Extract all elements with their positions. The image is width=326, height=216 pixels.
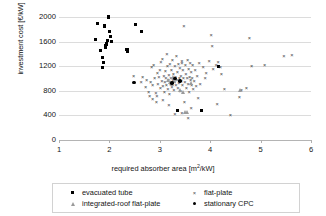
data-point: × [215,102,220,107]
tickmark-x-4 [210,140,211,143]
data-point [109,35,112,38]
legend-marker-dot-icon [193,202,196,205]
data-point: × [209,33,214,38]
data-point: × [289,53,294,58]
data-point [126,50,129,53]
y-tick-label-2000: 2000 [22,13,56,21]
tickmark-x-3 [160,140,161,143]
data-point: × [186,116,191,121]
data-point: × [150,97,155,102]
data-point: × [201,65,206,70]
data-point: × [203,76,208,81]
chart-legend: evacuated tube×flat-plateintegrated-roof… [52,183,300,213]
data-point: × [179,61,184,66]
data-point: × [237,95,242,100]
y-tick-label-1600: 1600 [22,38,56,46]
tickmark-x-5 [261,140,262,143]
data-point: × [210,44,215,49]
data-point [104,46,107,49]
data-point [99,49,102,52]
y-tick-label-1200: 1200 [22,62,56,70]
x-tick-label-4: 4 [200,145,220,154]
data-point: × [195,74,200,79]
data-point: × [174,54,179,59]
data-point: × [157,68,162,73]
data-point [96,22,99,25]
gridline-y-2000 [59,17,311,18]
x-tick-label-5: 5 [251,145,271,154]
data-point: × [198,82,203,87]
data-point [103,24,106,27]
data-point: × [172,112,177,117]
data-point [134,23,137,26]
data-point: × [181,24,186,29]
plot-area: ××××××××××××××××××××××××××××××××××××××××… [59,17,311,140]
data-point: × [182,100,187,105]
data-point: × [262,63,267,68]
x-tick-label-3: 3 [150,145,170,154]
data-point [181,90,185,94]
scatter-chart-figure: investment cost [€/kW] 04008001200160020… [0,0,326,216]
y-axis-tick-labels: 0400800120016002000 [22,0,56,160]
tickmark-x-6 [311,140,312,143]
data-point [107,15,110,18]
x-axis-title-main: required absorber area [m [111,164,196,173]
data-point: × [160,98,165,103]
legend-marker-cross-icon: × [192,190,197,195]
legend-label: stationary CPC [204,199,254,209]
data-point: × [228,113,233,118]
data-point [101,66,104,69]
data-point [185,110,189,114]
data-point [189,81,193,85]
x-axis-title-tail: /kW] [200,164,215,173]
data-point [108,30,111,33]
data-point: × [160,57,165,62]
gridline-y-1600 [59,42,311,43]
data-point: × [247,36,252,41]
tickmark-x-1 [59,140,60,143]
x-axis-tick-labels: 123456 [0,145,326,157]
x-tick-label-6: 6 [301,145,321,154]
data-point: × [166,103,171,108]
data-point: × [196,96,201,101]
data-point [173,77,176,80]
data-point [102,61,105,64]
data-point: × [207,59,212,64]
x-axis-title: required absorber area [m2/kW] [0,163,326,173]
data-point [170,81,173,84]
data-point [238,88,242,92]
data-point: × [164,52,169,57]
y-tick-label-400: 400 [22,111,56,119]
data-point: × [218,65,223,70]
data-point [178,79,181,82]
y-tick-label-0: 0 [22,136,56,144]
legend-label: flat-plate [204,188,232,198]
legend-marker-square-icon [71,191,74,194]
legend-label: integrated-roof flat-plate [82,199,160,209]
data-point: × [249,64,254,69]
data-point: × [131,74,136,79]
gridline-y-0 [59,140,311,141]
tickmark-x-2 [109,140,110,143]
data-point: × [244,86,249,91]
data-point [200,109,203,112]
legend-label: evacuated tube [82,188,133,198]
data-point: × [222,87,227,92]
data-point [110,40,113,43]
data-point [101,56,104,59]
x-tick-label-1: 1 [49,145,69,154]
x-tick-label-2: 2 [99,145,119,154]
data-point [140,30,143,33]
data-point: × [151,63,156,68]
data-point [132,81,135,84]
y-tick-label-800: 800 [22,87,56,95]
legend-marker-triangle-icon [71,202,75,206]
data-point: × [219,72,224,77]
data-point: × [281,54,286,59]
data-point [105,42,108,45]
data-point [94,38,97,41]
